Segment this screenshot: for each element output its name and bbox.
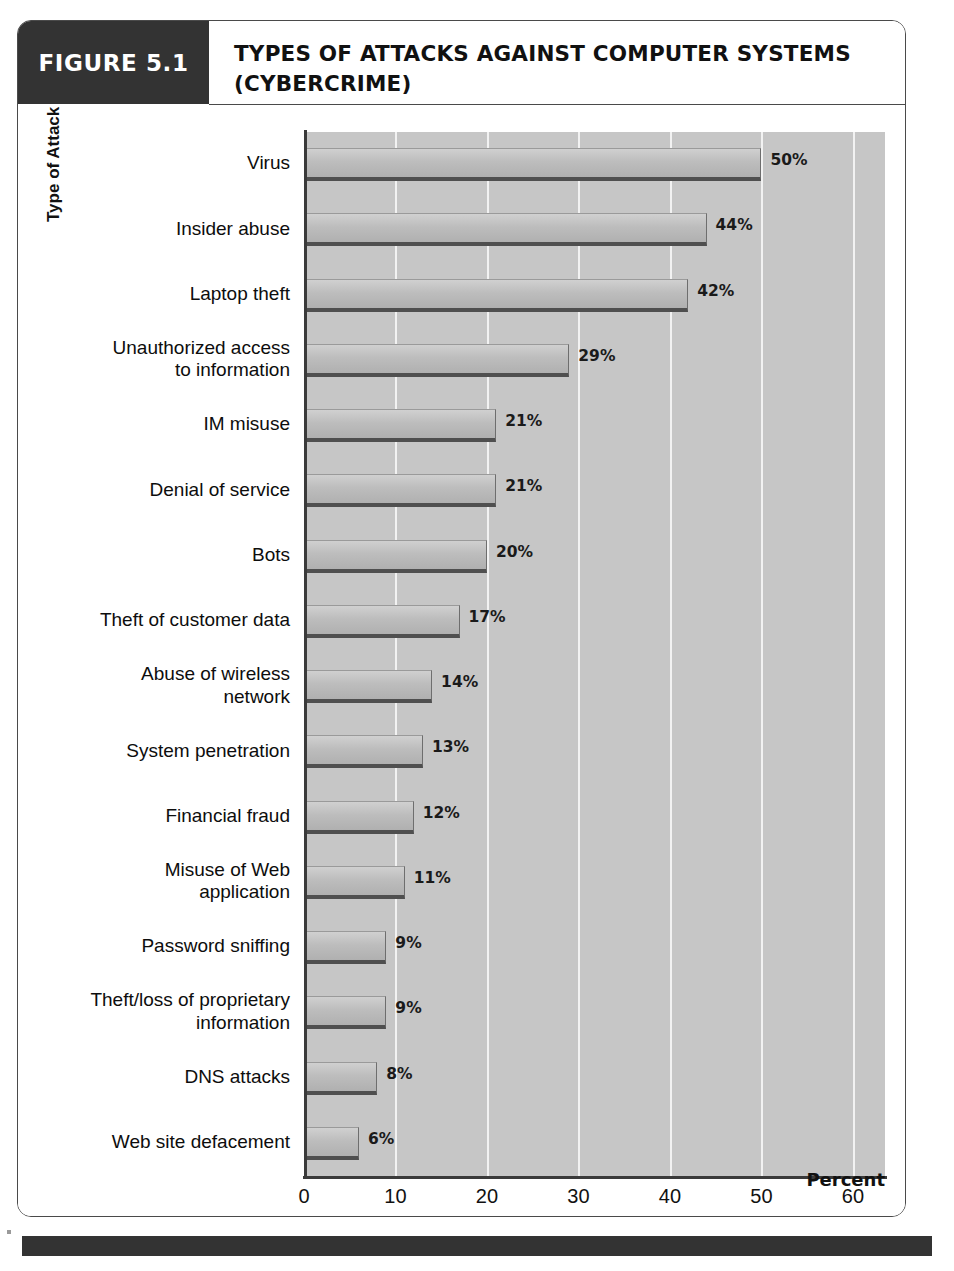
bar-value-label: 6% — [368, 1130, 394, 1148]
bar-value-label: 13% — [432, 738, 469, 756]
x-tick-30: 30 — [567, 1185, 589, 1208]
bar — [304, 344, 569, 377]
bar — [304, 1127, 359, 1160]
category-label-line: Abuse of wireless — [24, 663, 290, 685]
category-label-line: DNS attacks — [24, 1066, 290, 1088]
bar — [304, 801, 414, 834]
category-label-line: Password sniffing — [24, 935, 290, 957]
bar — [304, 996, 386, 1029]
y-axis-line — [304, 130, 307, 1178]
bar-value-label: 9% — [395, 934, 421, 952]
category-label-line: Virus — [24, 152, 290, 174]
category-label-line: Unauthorized access — [24, 337, 290, 359]
category-label-line: Misuse of Web — [24, 859, 290, 881]
bar-value-label: 21% — [505, 477, 542, 495]
bar — [304, 931, 386, 964]
bar-row — [304, 850, 885, 915]
bar-row — [304, 980, 885, 1045]
category-label: Theft of customer data — [24, 609, 304, 631]
bar — [304, 279, 688, 312]
bar — [304, 605, 460, 638]
bar-value-label: 17% — [469, 608, 506, 626]
category-label: System penetration — [24, 740, 304, 762]
category-label-line: Financial fraud — [24, 805, 290, 827]
bar-row — [304, 915, 885, 980]
category-label: DNS attacks — [24, 1066, 304, 1088]
category-label-line: Bots — [24, 544, 290, 566]
plot-area — [304, 132, 885, 1176]
bar-row — [304, 654, 885, 719]
category-label-line: Denial of service — [24, 479, 290, 501]
x-axis-line — [303, 1176, 887, 1179]
bar — [304, 670, 432, 703]
page-edge-marker — [7, 1230, 11, 1234]
category-label: Denial of service — [24, 479, 304, 501]
x-tick-50: 50 — [750, 1185, 772, 1208]
category-label: Laptop theft — [24, 283, 304, 305]
x-tick-10: 10 — [384, 1185, 406, 1208]
figure-number-label: FIGURE 5.1 — [39, 50, 189, 76]
bar-value-label: 29% — [578, 347, 615, 365]
x-tick-20: 20 — [476, 1185, 498, 1208]
bar-value-label: 50% — [770, 151, 807, 169]
bar-value-label: 8% — [386, 1065, 412, 1083]
category-label-line: application — [24, 881, 290, 903]
category-label-line: Theft of customer data — [24, 609, 290, 631]
bar-value-label: 14% — [441, 673, 478, 691]
bar-row — [304, 263, 885, 328]
category-label-line: Laptop theft — [24, 283, 290, 305]
category-label: Unauthorized accessto information — [24, 337, 304, 382]
category-label-line: IM misuse — [24, 413, 290, 435]
category-label: Misuse of Webapplication — [24, 859, 304, 904]
x-tick-0: 0 — [298, 1185, 309, 1208]
page-footer-bar — [22, 1236, 932, 1256]
category-label: Abuse of wirelessnetwork — [24, 663, 304, 708]
category-label-line: network — [24, 686, 290, 708]
figure-title-block: TYPES OF ATTACKS AGAINST COMPUTER SYSTEM… — [209, 21, 906, 104]
bar — [304, 1062, 377, 1095]
bar — [304, 474, 496, 507]
category-label-line: to information — [24, 359, 290, 381]
bar-value-label: 9% — [395, 999, 421, 1017]
category-label: Insider abuse — [24, 218, 304, 240]
category-label-line: Web site defacement — [24, 1131, 290, 1153]
bar-value-label: 11% — [414, 869, 451, 887]
category-label-line: System penetration — [24, 740, 290, 762]
category-label-line: information — [24, 1012, 290, 1034]
category-label-line: Insider abuse — [24, 218, 290, 240]
bar-value-label: 21% — [505, 412, 542, 430]
category-label: Financial fraud — [24, 805, 304, 827]
bar — [304, 213, 707, 246]
bar — [304, 735, 423, 768]
bar-value-label: 44% — [716, 216, 753, 234]
figure-title: TYPES OF ATTACKS AGAINST COMPUTER SYSTEM… — [234, 39, 887, 98]
category-label: Bots — [24, 544, 304, 566]
bar-row — [304, 524, 885, 589]
figure-frame: FIGURE 5.1 TYPES OF ATTACKS AGAINST COMP… — [17, 20, 906, 1217]
chart-region: Type of Attack VirusInsider abuseLaptop … — [18, 105, 906, 1217]
category-label: Virus — [24, 152, 304, 174]
bar — [304, 866, 405, 899]
bar-value-label: 42% — [697, 282, 734, 300]
bar-row — [304, 589, 885, 654]
bar — [304, 148, 761, 181]
category-label: Password sniffing — [24, 935, 304, 957]
x-tick-40: 40 — [659, 1185, 681, 1208]
bar-row — [304, 197, 885, 262]
category-label: Theft/loss of proprietaryinformation — [24, 989, 304, 1034]
bar-row — [304, 719, 885, 784]
figure-number-block: FIGURE 5.1 — [18, 21, 209, 104]
bar-row — [304, 393, 885, 458]
x-axis-title: Percent — [806, 1169, 885, 1190]
category-label-line: Theft/loss of proprietary — [24, 989, 290, 1011]
bar-row — [304, 785, 885, 850]
bar-value-label: 12% — [423, 804, 460, 822]
bar — [304, 540, 487, 573]
category-label: Web site defacement — [24, 1131, 304, 1153]
bar-value-label: 20% — [496, 543, 533, 561]
bar-row — [304, 458, 885, 523]
figure-header: FIGURE 5.1 TYPES OF ATTACKS AGAINST COMP… — [18, 21, 906, 104]
category-label: IM misuse — [24, 413, 304, 435]
bar — [304, 409, 496, 442]
